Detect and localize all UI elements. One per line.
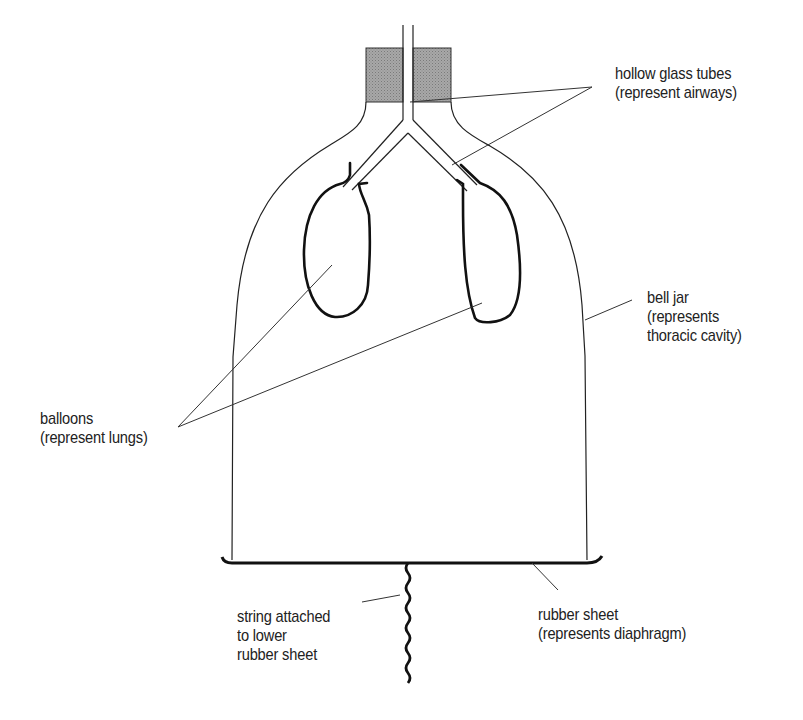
label-rubber-sheet: rubber sheet (represents diaphragm)	[538, 605, 686, 643]
bell-jar	[232, 102, 587, 560]
rubber-stopper	[366, 48, 451, 102]
label-balloons: balloons (represent lungs)	[40, 409, 148, 447]
hollow-glass-tubes	[343, 25, 477, 191]
string	[406, 563, 410, 683]
leader-lines	[178, 87, 632, 602]
rubber-sheet	[222, 556, 602, 563]
balloon-lungs	[304, 163, 520, 322]
label-string: string attached to lower rubber sheet	[237, 607, 330, 664]
label-bell-jar: bell jar (represents thoracic cavity)	[647, 288, 742, 345]
label-hollow-glass-tubes: hollow glass tubes (represent airways)	[615, 64, 737, 102]
